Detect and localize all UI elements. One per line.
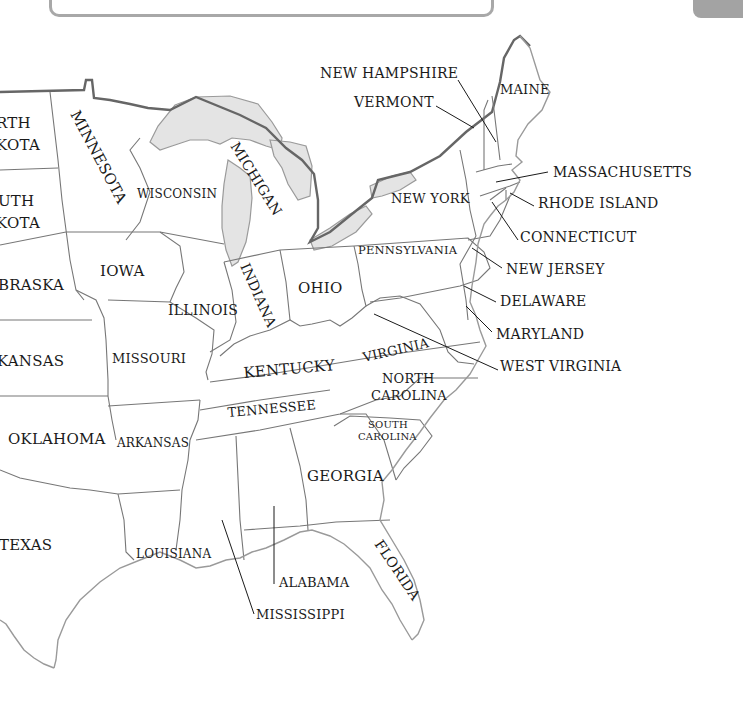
label-georgia[interactable]: GEORGIA	[307, 467, 384, 485]
great-lakes	[150, 96, 416, 266]
label-texas[interactable]: TEXAS	[0, 536, 52, 554]
eastern-us-map: RTH KOTA UTH KOTA BRASKA KANSAS OKLAHOMA…	[0, 0, 743, 715]
label-vermont[interactable]: VERMONT	[353, 94, 434, 110]
label-rhode-island[interactable]: RHODE ISLAND	[538, 195, 659, 211]
label-wisconsin[interactable]: WISCONSIN	[137, 187, 217, 201]
label-kansas[interactable]: KANSAS	[0, 352, 64, 370]
label-louisiana[interactable]: LOUISIANA	[136, 547, 211, 561]
label-south-dakota[interactable]: UTH	[0, 192, 34, 210]
label-tennessee[interactable]: TENNESSEE	[227, 397, 317, 420]
label-new-york[interactable]: NEW YORK	[391, 191, 470, 206]
label-kentucky[interactable]: KENTUCKY	[243, 356, 337, 382]
label-illinois[interactable]: ILLINOIS	[168, 302, 238, 318]
label-arkansas[interactable]: ARKANSAS	[116, 436, 189, 450]
label-maine[interactable]: MAINE	[500, 82, 550, 97]
label-west-virginia[interactable]: WEST VIRGINIA	[500, 358, 622, 374]
label-maryland[interactable]: MARYLAND	[496, 326, 584, 342]
label-oklahoma[interactable]: OKLAHOMA	[8, 430, 105, 448]
label-north-dakota[interactable]: RTH	[0, 114, 31, 132]
label-massachusetts[interactable]: MASSACHUSETTS	[553, 164, 692, 180]
label-south-carolina[interactable]: SOUTH	[368, 419, 408, 430]
label-north-dakota-2[interactable]: KOTA	[0, 136, 40, 154]
label-nebraska[interactable]: BRASKA	[0, 276, 64, 294]
label-delaware[interactable]: DELAWARE	[500, 293, 586, 309]
label-missouri[interactable]: MISSOURI	[112, 351, 186, 366]
lake-huron	[270, 140, 312, 200]
state-labels: RTH KOTA UTH KOTA BRASKA KANSAS OKLAHOMA…	[0, 65, 692, 622]
label-iowa[interactable]: IOWA	[100, 262, 145, 280]
label-indiana[interactable]: INDIANA	[237, 261, 280, 331]
label-south-dakota-2[interactable]: KOTA	[0, 214, 40, 232]
label-new-jersey[interactable]: NEW JERSEY	[506, 261, 605, 277]
label-mississippi[interactable]: MISSISSIPPI	[256, 607, 345, 622]
label-minnesota[interactable]: MINNESOTA	[66, 107, 130, 206]
label-connecticut[interactable]: CONNECTICUT	[520, 229, 637, 245]
label-south-carolina-2[interactable]: CAROLINA	[358, 431, 417, 442]
label-alabama[interactable]: ALABAMA	[278, 575, 350, 590]
label-north-carolina[interactable]: NORTH	[382, 371, 435, 386]
label-pennsylvania[interactable]: PENNSYLVANIA	[358, 243, 458, 257]
label-north-carolina-2[interactable]: CAROLINA	[371, 388, 447, 403]
label-ohio[interactable]: OHIO	[298, 279, 342, 297]
label-virginia[interactable]: VIRGINIA	[360, 335, 430, 365]
state-borders	[0, 92, 520, 560]
label-new-hampshire[interactable]: NEW HAMPSHIRE	[320, 65, 458, 81]
label-florida[interactable]: FLORIDA	[372, 537, 424, 604]
